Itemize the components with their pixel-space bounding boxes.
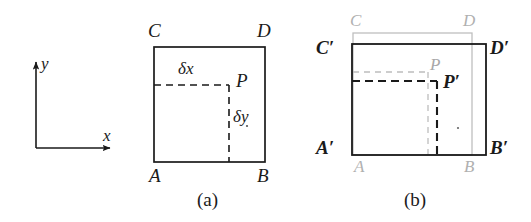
deformed-vertex-label-a-prime: A′ bbox=[316, 138, 334, 157]
panel-b-original-ghost bbox=[353, 33, 472, 155]
delta-x-label: δx bbox=[178, 60, 193, 77]
ghost-point-label-p: P bbox=[430, 56, 440, 73]
ghost-vertex-label-d: D bbox=[463, 12, 475, 29]
deformed-vertex-label-b-prime: B′ bbox=[490, 138, 508, 157]
caption-b: (b) bbox=[404, 190, 426, 209]
x-axis-label: x bbox=[103, 127, 111, 144]
ghost-vertex-label-a: A bbox=[354, 158, 364, 175]
deformed-vertex-label-c-prime: C′ bbox=[316, 38, 334, 57]
vertex-label-a: A bbox=[149, 166, 161, 185]
delta-y-label: δy bbox=[233, 108, 248, 125]
y-axis-label: y bbox=[41, 55, 49, 72]
vertex-label-d: D bbox=[257, 21, 271, 40]
deformed-vertex-label-d-prime: D′ bbox=[490, 38, 509, 57]
deformed-rect-abcd-prime bbox=[352, 44, 486, 155]
ghost-vertex-label-c: C bbox=[350, 12, 361, 29]
ghost-vertex-label-b: B bbox=[464, 158, 474, 175]
ghost-square-abcd bbox=[353, 33, 472, 155]
stray-dot-b bbox=[457, 127, 459, 129]
vertex-label-b: B bbox=[257, 166, 269, 185]
deformed-point-label-p-prime: P′ bbox=[443, 72, 460, 91]
point-label-p: P bbox=[236, 71, 248, 90]
panel-a-square bbox=[154, 47, 265, 162]
panel-b-deformed bbox=[352, 44, 486, 155]
vertex-label-c: C bbox=[148, 21, 161, 40]
deformation-figure: y x C D A B δx δy P (a) C D A B P C′ D′ … bbox=[0, 0, 531, 222]
caption-a: (a) bbox=[197, 190, 218, 209]
square-abcd bbox=[154, 47, 265, 162]
panel-a-axes bbox=[36, 62, 110, 148]
